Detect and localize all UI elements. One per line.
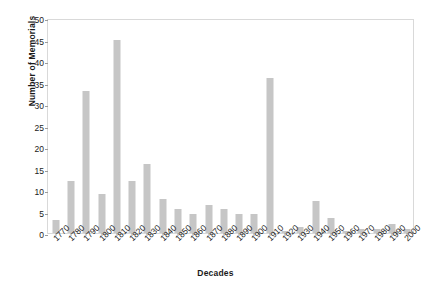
bar-slot bbox=[247, 20, 262, 233]
bar-slot bbox=[109, 20, 124, 233]
bar-slot bbox=[262, 20, 277, 233]
bar-chart: Number of Memorials 05101520253035404550… bbox=[0, 0, 431, 289]
y-tick-label: 0 bbox=[4, 230, 44, 240]
bar-slot bbox=[94, 20, 109, 233]
x-axis: 1770178017901800181018201830184018501860… bbox=[47, 236, 414, 270]
y-tick-label: 25 bbox=[4, 123, 44, 133]
y-tick-label: 20 bbox=[4, 144, 44, 154]
bar bbox=[113, 40, 120, 234]
bar-slot bbox=[48, 20, 63, 233]
bar-slot bbox=[186, 20, 201, 233]
y-tick-label: 30 bbox=[4, 101, 44, 111]
y-tick-label: 5 bbox=[4, 209, 44, 219]
bar-slot bbox=[79, 20, 94, 233]
plot-area: 05101520253035404550 bbox=[47, 19, 414, 234]
x-axis-title: Decades bbox=[0, 268, 431, 278]
bar-slot bbox=[124, 20, 139, 233]
bar-slot bbox=[232, 20, 247, 233]
bar-slot bbox=[369, 20, 384, 233]
bar-slot bbox=[201, 20, 216, 233]
y-tick-label: 50 bbox=[4, 15, 44, 25]
y-tick-label: 35 bbox=[4, 80, 44, 90]
bar-slot bbox=[170, 20, 185, 233]
bar-slot bbox=[293, 20, 308, 233]
bar-slot bbox=[216, 20, 231, 233]
bar-slot bbox=[140, 20, 155, 233]
bar-slot bbox=[323, 20, 338, 233]
bar-slot bbox=[400, 20, 415, 233]
bar-slot bbox=[384, 20, 399, 233]
bar-slot bbox=[308, 20, 323, 233]
bar bbox=[83, 91, 90, 233]
y-tick-label: 40 bbox=[4, 58, 44, 68]
bar-slot bbox=[354, 20, 369, 233]
bar bbox=[129, 181, 136, 233]
bar bbox=[67, 181, 74, 233]
y-tick-label: 10 bbox=[4, 187, 44, 197]
y-tick-label: 15 bbox=[4, 166, 44, 176]
bar bbox=[144, 164, 151, 233]
y-tick-label: 45 bbox=[4, 37, 44, 47]
bar-slot bbox=[155, 20, 170, 233]
bar-slot bbox=[63, 20, 78, 233]
bar-slot bbox=[277, 20, 292, 233]
bar bbox=[266, 78, 273, 233]
bar-slot bbox=[339, 20, 354, 233]
bars-layer bbox=[48, 20, 413, 233]
